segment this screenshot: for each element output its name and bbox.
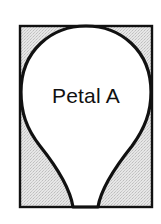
petal-diagram (0, 0, 161, 224)
petal-label: Petal A (52, 84, 120, 108)
